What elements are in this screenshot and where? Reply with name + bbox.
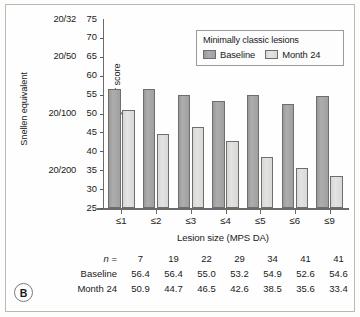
table-cell: 34 bbox=[256, 253, 289, 264]
y-tick-mark bbox=[100, 189, 103, 190]
y-tick-mark bbox=[100, 38, 103, 39]
panel-label: B bbox=[14, 283, 33, 302]
table-cell: 29 bbox=[223, 253, 256, 264]
y-tick-label: 25 bbox=[77, 202, 97, 213]
y-tick-label: 70 bbox=[77, 31, 97, 42]
table-cell: 41 bbox=[322, 253, 355, 264]
table-cell: 22 bbox=[190, 253, 223, 264]
table-cell: 56.4 bbox=[157, 268, 190, 279]
table-row-header: Month 24 bbox=[55, 283, 124, 294]
table-cell: 38.5 bbox=[256, 283, 289, 294]
bar-baseline bbox=[143, 89, 156, 208]
legend-entry: Month 24 bbox=[265, 49, 320, 60]
x-tick-mark bbox=[191, 210, 192, 214]
y-tick-mark bbox=[100, 208, 103, 209]
bar-baseline bbox=[282, 104, 295, 208]
y-tick-label: 50 bbox=[77, 107, 97, 118]
x-tick-mark bbox=[121, 210, 122, 214]
x-axis-line bbox=[97, 208, 349, 210]
table-cell: 54.6 bbox=[322, 268, 355, 279]
table-cell: 56.4 bbox=[124, 268, 157, 279]
table-cell: 35.6 bbox=[289, 283, 322, 294]
table-cell: 53.2 bbox=[223, 268, 256, 279]
y-tick-label: 75 bbox=[77, 13, 97, 24]
table-cell: 7 bbox=[124, 253, 157, 264]
x-tick-mark bbox=[226, 210, 227, 214]
legend-label: Month 24 bbox=[282, 49, 320, 60]
table-cell: 55.0 bbox=[190, 268, 223, 279]
bar-baseline bbox=[247, 95, 260, 208]
y-tick-mark bbox=[100, 114, 103, 115]
y-tick-mark bbox=[100, 170, 103, 171]
table-row-header-symbol: n bbox=[104, 253, 109, 264]
table-row-header: n = bbox=[55, 253, 124, 264]
figure-panel: Snellen equivalent 20/3220/5020/10020/20… bbox=[0, 0, 360, 317]
bar-baseline bbox=[178, 95, 191, 208]
table-row-header: Baseline bbox=[55, 268, 124, 279]
legend-title: Minimally classic lesions bbox=[203, 35, 337, 45]
x-tick-mark bbox=[156, 210, 157, 214]
x-axis-title: Lesion size (MPS DA) bbox=[97, 232, 349, 243]
bar-baseline bbox=[108, 89, 121, 208]
table-cell: 50.9 bbox=[124, 283, 157, 294]
y-tick-label: 30 bbox=[77, 183, 97, 194]
x-tick-label: ≤9 bbox=[310, 215, 350, 226]
x-tick-mark bbox=[295, 210, 296, 214]
legend-swatch-baseline bbox=[203, 50, 216, 59]
table-row: n =7192229344141 bbox=[55, 253, 347, 268]
x-tick-mark bbox=[260, 210, 261, 214]
table-cell: 33.4 bbox=[322, 283, 355, 294]
table-cell: 42.6 bbox=[223, 283, 256, 294]
chart-legend: Minimally classic lesions BaselineMonth … bbox=[196, 30, 344, 66]
bar-month24 bbox=[122, 110, 135, 208]
table-row: Baseline56.456.455.053.254.952.654.6 bbox=[55, 268, 347, 283]
table-cell: 54.9 bbox=[256, 268, 289, 279]
snellen-tick-label: 20/50 bbox=[20, 50, 76, 61]
y-tick-label: 65 bbox=[77, 50, 97, 61]
bar-group bbox=[143, 19, 170, 208]
bar-month24 bbox=[226, 141, 239, 208]
y-tick-label: 40 bbox=[77, 145, 97, 156]
data-table: n =7192229344141Baseline56.456.455.053.2… bbox=[55, 253, 347, 298]
x-tick-mark bbox=[330, 210, 331, 214]
table-cell: 44.7 bbox=[157, 283, 190, 294]
table-cell: 46.5 bbox=[190, 283, 223, 294]
y-tick-mark bbox=[100, 132, 103, 133]
y-tick-mark bbox=[100, 95, 103, 96]
bar-month24 bbox=[330, 176, 343, 208]
bar-baseline bbox=[212, 101, 225, 208]
y-tick-label: 35 bbox=[77, 164, 97, 175]
table-cell: 41 bbox=[289, 253, 322, 264]
snellen-tick-label: 20/32 bbox=[20, 13, 76, 24]
bar-baseline bbox=[316, 96, 329, 208]
y-tick-label: 60 bbox=[77, 69, 97, 80]
table-cell: 19 bbox=[157, 253, 190, 264]
legend-swatch-month24 bbox=[265, 50, 278, 59]
y-tick-label: 55 bbox=[77, 88, 97, 99]
bar-group bbox=[108, 19, 135, 208]
y-tick-mark bbox=[100, 151, 103, 152]
snellen-tick-label: 20/200 bbox=[20, 164, 76, 175]
bar-month24 bbox=[192, 127, 205, 208]
y-tick-mark bbox=[100, 57, 103, 58]
table-cell: 52.6 bbox=[289, 268, 322, 279]
bar-month24 bbox=[261, 157, 274, 208]
y-tick-label: 45 bbox=[77, 126, 97, 137]
table-row: Month 2450.944.746.542.638.535.633.4 bbox=[55, 283, 347, 298]
legend-label: Baseline bbox=[220, 49, 255, 60]
y-tick-mark bbox=[100, 76, 103, 77]
snellen-tick-label: 20/100 bbox=[20, 107, 76, 118]
legend-entries: BaselineMonth 24 bbox=[203, 49, 337, 60]
bar-month24 bbox=[157, 134, 170, 208]
legend-entry: Baseline bbox=[203, 49, 255, 60]
bar-month24 bbox=[296, 168, 309, 208]
